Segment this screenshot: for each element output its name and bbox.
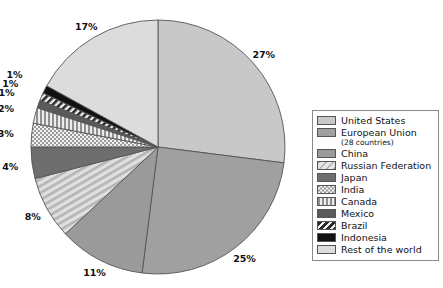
legend-swatch-icon [317, 197, 336, 206]
legend-swatch-icon [317, 245, 336, 254]
pie-plot-area: 27%25%11%8%4%3%2%1%1%1%17% [0, 0, 310, 288]
legend-swatch-icon [317, 233, 336, 242]
slice-percent-label: 1% [0, 87, 14, 98]
slice-percent-label: 4% [2, 160, 18, 171]
slice-percent-label: 17% [75, 20, 97, 31]
legend-item-label: Canada [341, 196, 377, 207]
legend-item-european-union[interactable]: European Union(28 countries) [317, 127, 435, 147]
legend-item-japan[interactable]: Japan [317, 172, 435, 183]
legend-swatch-icon [317, 173, 336, 182]
legend-item-label: India [341, 184, 364, 195]
legend-item-brazil[interactable]: Brazil [317, 220, 435, 231]
slice-percent-label: 27% [253, 48, 275, 59]
slice-percent-label: 25% [233, 253, 255, 264]
legend-item-label: Indonesia [341, 232, 387, 243]
legend-item-india[interactable]: India [317, 184, 435, 195]
legend-item-united-states[interactable]: United States [317, 115, 435, 126]
legend-item-label: Japan [341, 172, 368, 183]
legend-item-china[interactable]: China [317, 148, 435, 159]
slice-percent-label: 8% [25, 210, 41, 221]
legend-item-canada[interactable]: Canada [317, 196, 435, 207]
legend-swatch-icon [317, 116, 336, 125]
chart-legend: United StatesEuropean Union(28 countries… [312, 110, 439, 261]
slice-percent-label: 11% [83, 266, 105, 277]
legend-item-label: Rest of the world [341, 244, 422, 255]
slice-percent-label: 3% [0, 127, 14, 138]
slice-percent-label: 1% [7, 68, 23, 79]
legend-swatch-icon [317, 221, 336, 230]
legend-item-sublabel: (28 countries) [341, 138, 417, 147]
slice-percent-label: 2% [0, 102, 14, 113]
legend-item-label: European Union [341, 127, 417, 138]
pie-slice-group [31, 20, 285, 274]
legend-swatch-icon [317, 161, 336, 170]
pie-chart: 27%25%11%8%4%3%2%1%1%1%17% United States… [0, 0, 443, 288]
legend-item-label: Brazil [341, 220, 368, 231]
pie-slice [158, 20, 285, 163]
pie-slice [142, 147, 284, 274]
legend-swatch-icon [317, 185, 336, 194]
legend-swatch-icon [317, 209, 336, 218]
legend-item-label: United States [341, 115, 405, 126]
legend-item-label: China [341, 148, 368, 159]
legend-swatch-icon [317, 128, 336, 137]
legend-item-mexico[interactable]: Mexico [317, 208, 435, 219]
legend-item-indonesia[interactable]: Indonesia [317, 232, 435, 243]
pie-svg [0, 0, 310, 288]
legend-item-label: Russian Federation [341, 160, 431, 171]
legend-item-rest-of-the-world[interactable]: Rest of the world [317, 244, 435, 255]
legend-item-russian-federation[interactable]: Russian Federation [317, 160, 435, 171]
legend-swatch-icon [317, 149, 336, 158]
legend-item-label: Mexico [341, 208, 374, 219]
